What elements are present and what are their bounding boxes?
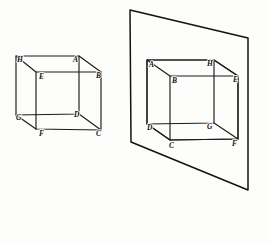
right-cube-label-D: D — [146, 123, 153, 132]
figure-root: H A B E G D C F A H E — [0, 0, 269, 244]
right-cube-label-C: C — [169, 141, 175, 150]
right-cube-edge-H-E — [214, 60, 238, 76]
left-cube-label-A: A — [72, 55, 78, 64]
right-cube-edge-G-F — [214, 123, 238, 139]
right-cube-label-G: G — [207, 122, 213, 131]
left-cube-label-B: B — [95, 71, 101, 80]
left-cube-label-D: D — [73, 110, 80, 119]
left-cube-back-face — [16, 56, 79, 115]
left-cube-edge-A-B — [79, 56, 101, 72]
right-cube-label-B: B — [171, 76, 177, 85]
geometry-figure: H A B E G D C F A H E — [0, 0, 269, 244]
right-cube: A H E B D G F C — [146, 59, 238, 150]
left-cube-label-E: E — [38, 72, 44, 81]
right-cube-label-A: A — [148, 60, 154, 69]
left-cube-label-F: F — [39, 129, 44, 138]
right-cube-back-face — [147, 60, 214, 124]
left-cube-label-H: H — [16, 55, 24, 64]
projection-plane — [130, 10, 248, 190]
projection-plane-outline — [130, 10, 248, 190]
right-cube-label-E: E — [232, 75, 238, 84]
left-cube: H A B E G D C F — [16, 55, 102, 138]
left-cube-edge-D-C — [79, 114, 101, 130]
right-cube-label-F: F — [232, 139, 237, 148]
left-cube-label-G: G — [16, 113, 22, 122]
left-cube-front-face — [36, 72, 101, 130]
right-cube-front-face — [170, 76, 238, 140]
right-cube-silhouette — [147, 60, 238, 140]
right-cube-label-H: H — [206, 59, 214, 68]
